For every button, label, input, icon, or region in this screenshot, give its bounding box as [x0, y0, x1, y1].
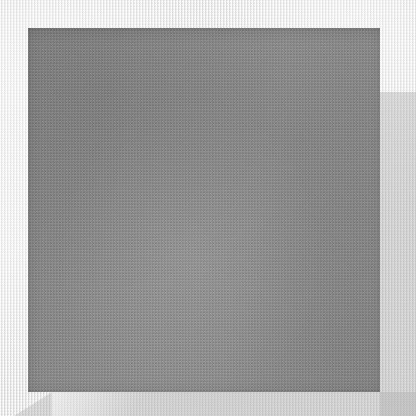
bottom-left-highlight-taper: [52, 392, 172, 416]
image-canvas: [0, 0, 416, 416]
fabric-edge-shading: [28, 28, 380, 392]
gray-fabric-square: [28, 28, 380, 392]
